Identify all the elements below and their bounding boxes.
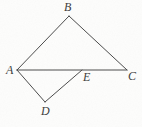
segment-ab: [17, 16, 69, 70]
segment-ad: [17, 70, 45, 102]
segment-de: [45, 70, 82, 102]
geometry-figure: A B C D E: [0, 0, 142, 127]
vertex-label-a: A: [6, 64, 13, 76]
segments-group: [17, 16, 127, 102]
vertex-label-b: B: [64, 1, 71, 13]
segment-bc: [69, 16, 127, 70]
vertex-label-e: E: [83, 71, 90, 83]
vertex-label-d: D: [41, 105, 50, 117]
vertex-label-c: C: [128, 70, 136, 82]
figure-canvas: [0, 0, 142, 127]
